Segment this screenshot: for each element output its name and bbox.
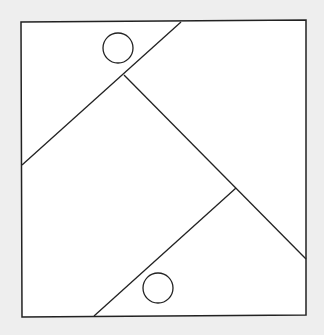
diagram-canvas — [0, 0, 324, 335]
outer-square — [21, 20, 306, 317]
